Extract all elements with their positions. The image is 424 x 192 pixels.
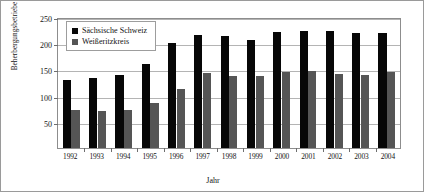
legend-item: Weißeritzkreis	[72, 36, 147, 47]
bar-group	[374, 19, 400, 148]
chart-legend: Sächsische SchweizWeißeritzkreis	[66, 21, 156, 51]
bar	[63, 80, 71, 148]
bar	[168, 43, 176, 148]
x-tick-label: 1993	[83, 152, 109, 166]
y-tick-label: 100	[40, 93, 52, 102]
bar	[221, 36, 229, 148]
chart-figure: Beherbergungsbetriebe 50100150200250 Säc…	[0, 0, 424, 192]
x-tick-label: 1995	[136, 152, 162, 166]
bar	[282, 72, 290, 149]
x-tick-label: 1997	[189, 152, 215, 166]
x-axis-title: Jahr	[1, 176, 424, 185]
bar	[229, 76, 237, 148]
bar-group	[347, 19, 373, 148]
bar	[177, 89, 185, 148]
y-tick-label: 200	[40, 41, 52, 50]
legend-label: Sächsische Schweiz	[82, 26, 147, 35]
x-tick-label: 1996	[163, 152, 189, 166]
bar	[300, 31, 308, 148]
legend-swatch-icon	[72, 28, 78, 34]
bar	[352, 33, 360, 148]
legend-swatch-icon	[72, 39, 78, 45]
bar-group	[216, 19, 242, 148]
y-axis-title: Beherbergungsbetriebe	[11, 0, 19, 101]
bar-group	[269, 19, 295, 148]
x-tick-label: 2002	[322, 152, 348, 166]
bar-group	[163, 19, 189, 148]
bar	[98, 111, 106, 148]
bar	[256, 76, 264, 148]
bar	[150, 103, 158, 148]
bar	[71, 110, 79, 148]
bar	[387, 72, 395, 148]
bar	[361, 75, 369, 148]
y-tick-label: 150	[40, 67, 52, 76]
x-tick-label: 1998	[216, 152, 242, 166]
bar-group	[295, 19, 321, 148]
bar	[308, 71, 316, 148]
bar	[247, 40, 255, 148]
legend-label: Weißeritzkreis	[82, 37, 129, 46]
x-axis-tick-labels: 1992199319941995199619971998199920002001…	[57, 152, 401, 166]
bar	[203, 73, 211, 148]
bar	[194, 35, 202, 148]
bar-group	[242, 19, 268, 148]
bar	[378, 33, 386, 148]
bar	[142, 64, 150, 148]
x-tick-label: 1992	[57, 152, 83, 166]
bar	[326, 31, 334, 148]
bar-group	[190, 19, 216, 148]
x-tick-label: 2000	[269, 152, 295, 166]
bar-group	[321, 19, 347, 148]
bar	[273, 32, 281, 148]
x-tick-label: 2004	[375, 152, 401, 166]
x-tick-label: 2003	[348, 152, 374, 166]
bar	[115, 75, 123, 148]
bar	[89, 78, 97, 148]
legend-item: Sächsische Schweiz	[72, 25, 147, 36]
x-tick-label: 1999	[242, 152, 268, 166]
x-tick-label: 1994	[110, 152, 136, 166]
y-tick-label: 50	[44, 119, 52, 128]
y-tick-label: 250	[40, 15, 52, 24]
bar	[335, 74, 343, 148]
bar	[124, 110, 132, 148]
x-tick-label: 2001	[295, 152, 321, 166]
